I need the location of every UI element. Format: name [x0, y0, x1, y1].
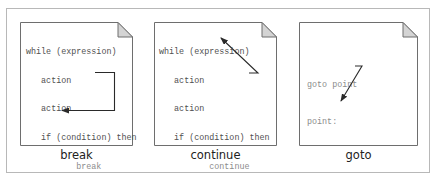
- code-line: if (condition) then: [159, 134, 270, 144]
- code-line: action: [26, 77, 137, 87]
- code-line: action: [159, 77, 270, 87]
- code-line: while (expression): [159, 48, 270, 58]
- code-line-continue: continue: [159, 163, 270, 173]
- code-line: if (condition) then: [26, 134, 137, 144]
- code-line-break: break: [26, 163, 137, 173]
- code-line: action: [159, 105, 270, 115]
- code-line: action: [26, 105, 137, 115]
- caption-break: break: [20, 148, 133, 162]
- page-break: while (expression) action action if (con…: [20, 22, 133, 146]
- break-keyword: break: [76, 162, 101, 172]
- code-block-goto-label: point:: [307, 99, 337, 147]
- caption-continue: continue: [154, 148, 277, 162]
- goto-label: point:: [307, 118, 337, 128]
- caption-goto: goto: [299, 148, 418, 162]
- continue-keyword: continue: [209, 162, 249, 172]
- page-continue: while (expression) action action if (con…: [154, 22, 277, 146]
- page-goto: goto point point:: [299, 22, 418, 146]
- goto-statement: goto point: [307, 81, 357, 91]
- code-line: while (expression): [26, 48, 137, 58]
